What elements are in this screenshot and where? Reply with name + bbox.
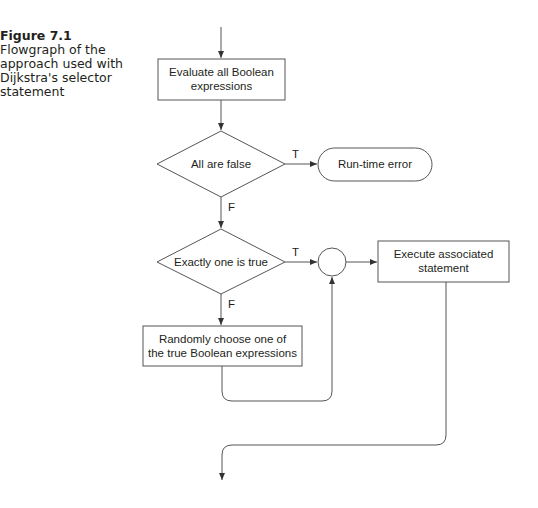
runtime-error-label: Run-time error (338, 158, 412, 170)
runtime-error-terminal: Run-time error (318, 148, 432, 181)
exactly-one-decision: Exactly one is true (157, 229, 285, 294)
random-choose-line1: Randomly choose one of (159, 333, 287, 345)
exactly-one-label: Exactly one is true (174, 256, 268, 268)
execute-line1: Execute associated (394, 248, 494, 260)
execute-box: Execute associated statement (378, 241, 509, 282)
evaluate-line1: Evaluate all Boolean (169, 66, 274, 78)
all-false-true-label: T (292, 148, 299, 160)
random-choose-box: Randomly choose one of the true Boolean … (143, 326, 302, 366)
exactly-one-false-label: F (228, 298, 235, 310)
all-false-decision: All are false (157, 131, 285, 197)
evaluate-box: Evaluate all Boolean expressions (158, 59, 285, 100)
execute-line2: statement (418, 262, 469, 274)
random-choose-line2: the true Boolean expressions (148, 347, 297, 359)
junction-node (318, 248, 346, 276)
execute-exit-arrow (222, 282, 446, 480)
evaluate-line2: expressions (191, 80, 253, 92)
all-false-false-label: F (228, 201, 235, 213)
exactly-one-true-label: T (292, 246, 299, 258)
all-false-label: All are false (191, 158, 251, 170)
flowgraph: Evaluate all Boolean expressions All are… (0, 0, 538, 508)
